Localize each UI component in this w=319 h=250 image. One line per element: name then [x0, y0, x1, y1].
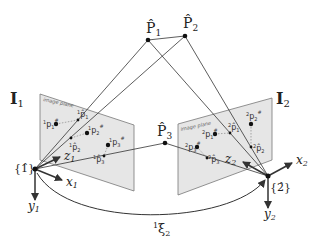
world-point-1 [146, 38, 151, 43]
world-point-2-label: P̂2 [183, 14, 198, 33]
camera-1-y-label: y1 [27, 199, 40, 214]
camera-2-frame-label: {2̂} [270, 181, 291, 194]
camera-2-center [266, 174, 271, 179]
camera-2-y-label: y2 [263, 207, 276, 222]
image-1-label: I1 [10, 89, 24, 109]
world-point-3 [163, 141, 168, 146]
world-point-1-label: P̂1 [146, 19, 161, 38]
world-point-2 [183, 34, 188, 39]
transform-label: 1ξ2 [153, 221, 170, 238]
image-2-label: I2 [276, 89, 290, 109]
baseline-p1-p2 [148, 36, 185, 40]
camera-1-frame-label: {1̂} [14, 162, 35, 175]
camera-2-x-label: x2 [296, 153, 308, 168]
stereo-geometry-diagram: image plane image plane [0, 0, 319, 250]
world-point-3-label: P̂3 [157, 122, 172, 141]
camera-1-x-label: x1 [66, 175, 78, 190]
